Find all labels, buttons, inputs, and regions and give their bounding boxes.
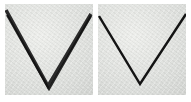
left-image-panel (5, 4, 93, 95)
v-shape-thick-icon (5, 4, 93, 95)
v-shape-thin-icon (98, 4, 186, 95)
right-image-panel (98, 4, 186, 95)
